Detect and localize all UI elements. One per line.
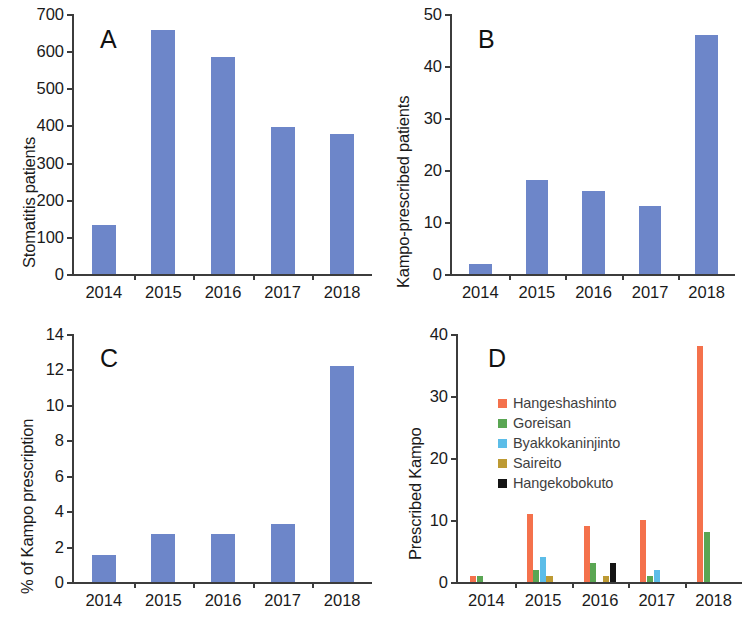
y-axis-tick (445, 66, 452, 68)
y-axis-tick-label: 10 (430, 511, 448, 530)
panel-d-y-axis-label: Prescribed Kampo (406, 427, 425, 560)
y-axis-tick-label: 700 (36, 5, 64, 24)
x-axis-tick-label: 2016 (205, 283, 242, 302)
y-axis-tick (67, 125, 74, 127)
x-axis-tick (134, 274, 136, 280)
y-axis-tick (445, 222, 452, 224)
bar (211, 534, 235, 582)
legend-label: Hangeshashinto (513, 395, 616, 411)
legend-item[interactable]: Hangekobokuto (498, 474, 620, 492)
bar (704, 532, 710, 582)
x-axis-tick-label: 2017 (632, 283, 669, 302)
legend-item[interactable]: Hangeshashinto (498, 394, 620, 412)
y-axis-tick (67, 334, 74, 336)
y-axis-tick-label: 14 (46, 325, 64, 344)
legend-label: Hangekobokuto (513, 475, 613, 491)
x-axis-tick (134, 582, 136, 588)
y-axis-tick (67, 582, 74, 584)
bar (211, 57, 235, 274)
x-axis-tick (628, 582, 630, 588)
y-axis-tick-label: 6 (55, 466, 64, 485)
x-axis-tick-label: 2016 (575, 283, 612, 302)
y-axis-tick-label: 0 (433, 265, 442, 284)
y-axis-tick-label: 8 (55, 431, 64, 450)
x-axis-tick-label: 2015 (145, 591, 182, 610)
y-axis-tick (445, 170, 452, 172)
y-axis-tick-label: 20 (430, 449, 448, 468)
x-axis-tick-label: 2017 (638, 591, 675, 610)
x-axis-tick (678, 274, 680, 280)
legend-swatch-icon (498, 479, 507, 488)
x-axis-tick (193, 582, 195, 588)
bar (639, 206, 662, 274)
panel-a-plot-area: 0100200300400500600700201420152016201720… (72, 14, 372, 276)
legend-label: Byakkokaninjinto (513, 435, 620, 451)
x-axis-tick-label: 2018 (324, 283, 361, 302)
y-axis-tick (451, 582, 458, 584)
x-axis-tick (565, 274, 567, 280)
y-axis-tick (67, 200, 74, 202)
x-axis-tick (253, 582, 255, 588)
panel-c-plot-area: 0246810121420142015201620172018 (72, 334, 372, 584)
panel-b-y-axis-label: Kampo-prescribed patients (394, 96, 413, 288)
bar (527, 514, 533, 582)
y-axis-tick (451, 334, 458, 336)
bar (271, 524, 295, 582)
y-axis-tick-label: 10 (424, 213, 442, 232)
y-axis-tick-label: 2 (55, 537, 64, 556)
x-axis-tick-label: 2018 (688, 283, 725, 302)
bar (695, 35, 718, 274)
x-axis-tick-label: 2018 (324, 591, 361, 610)
y-axis-tick-label: 12 (46, 360, 64, 379)
bar (151, 534, 175, 582)
x-axis-tick-label: 2017 (264, 283, 301, 302)
legend-swatch-icon (498, 439, 507, 448)
legend-swatch-icon (498, 419, 507, 428)
y-axis-tick (67, 274, 74, 276)
x-axis-tick-label: 2018 (695, 591, 732, 610)
legend-item[interactable]: Byakkokaninjinto (498, 434, 620, 452)
legend-label: Goreisan (513, 415, 571, 431)
y-axis-tick-label: 40 (430, 325, 448, 344)
bar (526, 180, 549, 274)
bar (151, 30, 175, 274)
y-axis-tick (451, 396, 458, 398)
y-axis-tick (67, 440, 74, 442)
y-axis-tick (67, 163, 74, 165)
bar (330, 134, 354, 274)
x-axis-tick-label: 2014 (85, 283, 122, 302)
x-axis-tick-label: 2014 (85, 591, 122, 610)
legend-swatch-icon (498, 459, 507, 468)
bar (470, 576, 476, 582)
bar (590, 563, 596, 582)
panel-d: Prescribed Kampo D 010203040201420152016… (398, 322, 744, 627)
legend-label: Saireito (513, 455, 561, 471)
y-axis-tick-label: 0 (55, 573, 64, 592)
x-axis-tick-label: 2015 (519, 283, 556, 302)
bar (271, 127, 295, 274)
y-axis-tick-label: 400 (36, 116, 64, 135)
legend-item[interactable]: Goreisan (498, 414, 620, 432)
bar (697, 346, 703, 582)
y-axis-tick-label: 100 (36, 227, 64, 246)
y-axis-tick-label: 40 (424, 57, 442, 76)
y-axis-tick-label: 4 (55, 502, 64, 521)
bar (469, 264, 492, 274)
y-axis-tick (67, 405, 74, 407)
legend-item[interactable]: Saireito (498, 454, 620, 472)
bar (654, 570, 660, 582)
bar (477, 576, 483, 582)
y-axis-tick-label: 0 (55, 265, 64, 284)
y-axis-tick (67, 511, 74, 513)
x-axis-tick (515, 582, 517, 588)
x-axis-tick-label: 2014 (462, 283, 499, 302)
y-axis-tick (67, 476, 74, 478)
panel-a: Stomatitis patients A 010020030040050060… (0, 0, 380, 315)
x-axis-tick (193, 274, 195, 280)
y-axis-tick (445, 274, 452, 276)
bar (610, 563, 616, 582)
y-axis-tick-label: 0 (439, 573, 448, 592)
bar (647, 576, 653, 582)
y-axis-tick-label: 600 (36, 42, 64, 61)
x-axis-tick-label: 2016 (582, 591, 619, 610)
